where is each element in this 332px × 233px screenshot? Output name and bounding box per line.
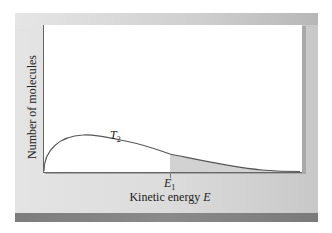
x-axis-label-variable: E — [203, 190, 210, 204]
y-axis-label: Number of molecules — [25, 37, 39, 177]
curve-label-T2: T2 — [110, 128, 121, 144]
curve-label-text: T — [110, 128, 117, 142]
x-axis-label-text: Kinetic energy — [129, 190, 203, 204]
bottom-bar — [15, 213, 318, 222]
x-axis-label: Kinetic energy E — [90, 190, 250, 205]
curve-label-subscript: 2 — [117, 135, 121, 144]
plot-background — [43, 25, 302, 172]
